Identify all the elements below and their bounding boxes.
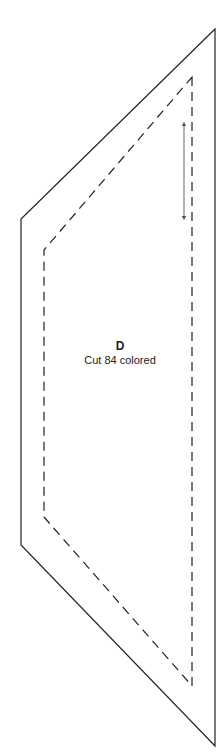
pattern-piece-diagram xyxy=(0,0,224,752)
outer-cut-line xyxy=(21,29,215,746)
inner-seam-line xyxy=(44,77,192,686)
cut-instruction: Cut 84 colored xyxy=(60,354,180,366)
piece-letter: D xyxy=(60,339,180,353)
